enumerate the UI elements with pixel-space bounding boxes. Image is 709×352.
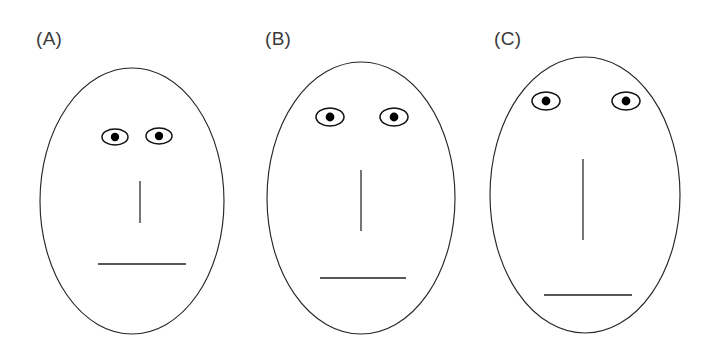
figure-background (0, 0, 709, 352)
eye-left-a (102, 129, 128, 145)
eye-right-a (146, 128, 172, 144)
panel-label-b: (B) (265, 28, 291, 49)
eye-left-pupil-b (326, 113, 335, 122)
panel-label-c: (C) (494, 28, 521, 49)
eye-left-pupil-c (542, 97, 551, 106)
panel-label-a: (A) (36, 28, 62, 49)
eye-right-pupil-b (390, 113, 399, 122)
eye-left-pupil-a (111, 133, 119, 141)
schematic-faces-figure: (A) (B) (0, 0, 709, 352)
eye-right-c (612, 92, 640, 110)
eye-right-pupil-a (155, 132, 163, 140)
figure-root: (A) (B) (0, 0, 709, 352)
eye-left-c (532, 92, 560, 110)
eye-right-b (380, 108, 408, 126)
eye-right-pupil-c (622, 97, 631, 106)
eye-left-b (316, 108, 344, 126)
